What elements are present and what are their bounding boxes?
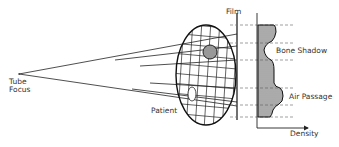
xray-projection-diagram [0,0,339,147]
ray [132,89,237,102]
bone-shadow-label: Bone Shadow [276,47,327,55]
tube-focus-point [18,73,20,75]
focus-label: Focus [9,86,30,94]
air-passage-object [188,87,196,101]
xray-beam [19,34,237,106]
beam-edge-bottom [19,74,237,106]
patient-body [160,20,270,132]
density-profile [258,25,283,117]
bone-object [203,45,217,59]
density-axis-label: Density [290,130,319,138]
tube-focus-label: Tube Focus [9,78,30,94]
patient-label: Patient [151,107,177,115]
film-label: Film [226,8,241,16]
ray [140,60,237,66]
air-passage-label: Air Passage [289,93,332,101]
